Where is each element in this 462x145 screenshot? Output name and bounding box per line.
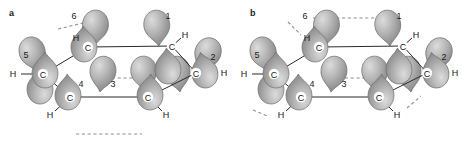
hydrogen-label-H5: H: [241, 69, 248, 79]
hydrogen-label-H3: H: [163, 110, 170, 120]
carbon-label-C1: C: [169, 42, 176, 52]
panel-label-b: b: [250, 8, 256, 18]
hydrogen-label-H2: H: [221, 68, 228, 78]
carbon-label-C5: C: [271, 70, 278, 80]
hydrogen-label-H5: H: [10, 69, 17, 79]
number-label-4: 4: [309, 79, 314, 89]
figure-canvas: a: [0, 0, 462, 145]
carbon-label-C2: C: [424, 69, 431, 79]
number-label-6: 6: [302, 11, 307, 21]
number-label-3: 3: [110, 79, 115, 89]
number-label-1: 1: [396, 11, 401, 21]
hydrogen-label-H1: H: [182, 30, 189, 40]
bond-C6-C1: [88, 46, 172, 47]
number-label-1: 1: [165, 11, 170, 21]
carbon-label-C6: C: [85, 43, 92, 53]
dashed-line: [253, 110, 267, 116]
bond-C6-C1: [319, 46, 403, 47]
carbon-label-C5: C: [40, 70, 47, 80]
number-label-3: 3: [341, 79, 346, 89]
carbon-label-C4: C: [298, 93, 305, 103]
hydrogen-label-H1: H: [413, 30, 420, 40]
hydrogen-label-H2: H: [452, 68, 459, 78]
carbon-label-C6: C: [316, 43, 323, 53]
carbon-label-C3: C: [145, 93, 152, 103]
hydrogen-label-H6: H: [73, 33, 80, 43]
orbital-lobe: [54, 74, 81, 111]
hydrogen-label-H6: H: [304, 33, 311, 43]
carbon-label-C2: C: [193, 69, 200, 79]
carbon-label-C3: C: [376, 93, 383, 103]
number-label-2: 2: [441, 52, 446, 62]
number-label-5: 5: [254, 50, 259, 60]
panel-label-a: a: [9, 8, 15, 18]
number-label-4: 4: [78, 79, 83, 89]
number-label-2: 2: [210, 52, 215, 62]
dashed-line: [407, 96, 421, 108]
panel-b: b: [231, 0, 462, 145]
number-label-5: 5: [23, 50, 28, 60]
carbon-label-C4: C: [67, 93, 74, 103]
hydrogen-label-H3: H: [394, 110, 401, 120]
panel-a: a: [0, 0, 231, 145]
number-label-6: 6: [71, 11, 76, 21]
orbital-lobe: [285, 74, 312, 111]
dashed-line: [288, 22, 301, 35]
hydrogen-label-H4: H: [47, 110, 54, 120]
hydrogen-label-H4: H: [278, 110, 285, 120]
carbon-label-C1: C: [400, 42, 407, 52]
